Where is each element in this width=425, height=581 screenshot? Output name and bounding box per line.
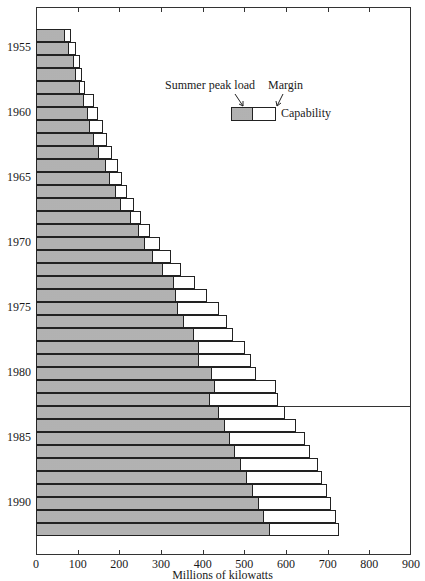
margin-bar xyxy=(259,497,332,510)
peak-load-bar xyxy=(36,81,80,94)
peak-load-bar xyxy=(36,250,153,263)
peak-load-bar xyxy=(36,341,199,354)
peak-load-bar xyxy=(36,146,99,159)
margin-bar xyxy=(241,458,318,471)
peak-load-bar xyxy=(36,211,131,224)
margin-bar xyxy=(74,55,80,68)
margin-bar xyxy=(139,224,150,237)
peak-load-bar xyxy=(36,42,69,55)
year-label: 1975 xyxy=(0,301,31,314)
margin-bar xyxy=(235,445,310,458)
peak-load-bar xyxy=(36,367,212,380)
legend-margin-label: Margin xyxy=(268,78,303,93)
margin-bar xyxy=(176,289,206,302)
year-label: 1990 xyxy=(0,496,31,509)
x-tick-bottom xyxy=(78,550,79,555)
margin-bar xyxy=(215,380,276,393)
margin-bar xyxy=(225,419,296,432)
peak-load-bar xyxy=(36,237,145,250)
margin-bar xyxy=(184,315,227,328)
year-label: 1965 xyxy=(0,171,31,184)
year-label: 1985 xyxy=(0,431,31,444)
margin-bar xyxy=(121,198,134,211)
peak-load-bar xyxy=(36,224,139,237)
peak-load-bar xyxy=(36,484,253,497)
x-axis-title: Millions of kilowatts xyxy=(0,568,425,581)
margin-bar xyxy=(199,354,252,367)
peak-load-bar xyxy=(36,133,94,146)
margin-bar xyxy=(106,159,119,172)
peak-load-bar xyxy=(36,185,116,198)
margin-bar xyxy=(90,120,103,133)
margin-bar xyxy=(174,276,195,289)
peak-load-bar xyxy=(36,68,76,81)
margin-bar xyxy=(65,29,71,42)
margin-bar xyxy=(230,432,305,445)
peak-load-bar xyxy=(36,289,176,302)
legend-peak-label: Summer peak load xyxy=(165,78,255,93)
x-tick-bottom xyxy=(161,550,162,555)
peak-load-bar xyxy=(36,328,194,341)
margin-bar xyxy=(270,523,339,536)
x-tick-bottom xyxy=(328,550,329,555)
margin-bar xyxy=(194,328,233,341)
peak-load-bar xyxy=(36,497,259,510)
legend-capability-label: Capability xyxy=(281,106,331,121)
margin-bar xyxy=(116,185,126,198)
x-tick-top xyxy=(369,7,370,12)
margin-bar xyxy=(69,42,75,55)
year-label: 1970 xyxy=(0,236,31,249)
capability-vs-peak-load-chart: 19551960196519701975198019851990 0100200… xyxy=(0,0,425,581)
margin-bar xyxy=(76,68,81,81)
margin-bar xyxy=(219,406,286,419)
peak-load-bar xyxy=(36,406,219,419)
margin-bar xyxy=(199,341,245,354)
x-tick-bottom xyxy=(119,550,120,555)
x-tick-bottom xyxy=(369,550,370,555)
x-tick-bottom xyxy=(286,550,287,555)
peak-load-bar xyxy=(36,432,230,445)
margin-bar xyxy=(163,263,181,276)
margin-bar xyxy=(145,237,160,250)
peak-load-bar xyxy=(36,510,264,523)
peak-load-bar xyxy=(36,354,199,367)
peak-load-bar xyxy=(36,302,178,315)
peak-load-bar xyxy=(36,419,225,432)
year-label: 1955 xyxy=(0,41,31,54)
peak-load-bar xyxy=(36,458,241,471)
margin-bar xyxy=(84,94,94,107)
peak-load-bar xyxy=(36,120,90,133)
margin-bar xyxy=(247,471,322,484)
x-tick-top xyxy=(161,7,162,12)
legend-margin-swatch xyxy=(253,107,276,121)
margin-bar xyxy=(110,172,123,185)
peak-load-bar xyxy=(36,380,215,393)
margin-bar xyxy=(210,393,278,406)
peak-load-bar xyxy=(36,445,235,458)
peak-load-bar xyxy=(36,393,210,406)
year-label: 1960 xyxy=(0,106,31,119)
peak-load-bar xyxy=(36,29,65,42)
legend-peak-swatch xyxy=(231,107,253,121)
margin-bar xyxy=(153,250,171,263)
margin-bar xyxy=(99,146,113,159)
x-tick-top xyxy=(78,7,79,12)
projection-divider-line xyxy=(284,406,411,407)
peak-load-bar xyxy=(36,315,184,328)
margin-bar xyxy=(253,484,328,497)
margin-bar xyxy=(212,367,257,380)
year-label: 1980 xyxy=(0,366,31,379)
margin-bar xyxy=(94,133,107,146)
x-tick-top xyxy=(286,7,287,12)
margin-bar xyxy=(88,107,98,120)
peak-load-bar xyxy=(36,55,74,68)
peak-load-bar xyxy=(36,198,121,211)
x-tick-bottom xyxy=(203,550,204,555)
x-tick-top xyxy=(203,7,204,12)
peak-load-bar xyxy=(36,471,247,484)
peak-load-bar xyxy=(36,523,270,536)
x-tick-bottom xyxy=(244,550,245,555)
peak-load-bar xyxy=(36,159,106,172)
x-tick-top xyxy=(244,7,245,12)
x-tick-top xyxy=(328,7,329,12)
